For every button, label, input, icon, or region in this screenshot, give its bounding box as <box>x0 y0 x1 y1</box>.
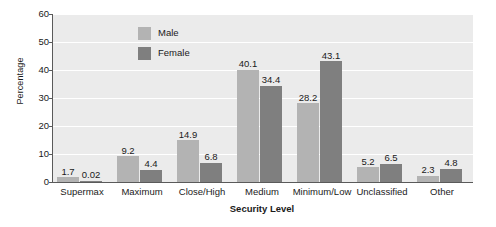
y-tick-label: 30 <box>3 93 49 103</box>
bar-female: 0.02 <box>80 181 102 183</box>
bars-layer: 1.70.029.24.414.96.840.134.428.243.15.26… <box>52 14 472 182</box>
x-tick-label: Minimum/Low <box>293 186 352 197</box>
legend: Male Female <box>138 25 190 65</box>
bar-group: 28.243.1 <box>292 14 352 182</box>
legend-label-male: Male <box>158 28 179 38</box>
y-tick-label: 10 <box>3 149 49 159</box>
x-tick-label: Close/High <box>179 186 225 197</box>
bar-value-label: 4.4 <box>144 159 157 169</box>
bar-male: 14.9 <box>177 140 199 182</box>
bar-male: 28.2 <box>297 103 319 182</box>
bar-group: 5.26.5 <box>352 14 412 182</box>
y-tick-label: 60 <box>3 9 49 19</box>
bar-group: 1.70.02 <box>52 14 112 182</box>
x-axis-title: Security Level <box>52 203 472 214</box>
x-axis-ticks: SupermaxMaximumClose/HighMediumMinimum/L… <box>52 186 472 200</box>
bar-value-label: 6.8 <box>204 152 217 162</box>
bar-value-label: 14.9 <box>179 130 198 140</box>
bar-female: 6.8 <box>200 163 222 182</box>
y-tick-label: 20 <box>3 121 49 131</box>
bar-group: 40.134.4 <box>232 14 292 182</box>
legend-item-female: Female <box>138 45 190 61</box>
x-tick-label: Supermax <box>60 186 103 197</box>
bar-male: 9.2 <box>117 156 139 182</box>
legend-swatch-female-icon <box>138 47 151 60</box>
legend-item-male: Male <box>138 25 190 41</box>
bar-female: 34.4 <box>260 86 282 182</box>
bar-value-label: 4.8 <box>444 158 457 168</box>
bar-value-label: 34.4 <box>262 75 281 85</box>
bar-value-label: 2.3 <box>421 165 434 175</box>
x-tick-label: Other <box>430 186 454 197</box>
x-tick-label: Maximum <box>121 186 162 197</box>
bar-male: 1.7 <box>57 177 79 182</box>
bar-male: 2.3 <box>417 176 439 182</box>
bar-female: 4.8 <box>440 169 462 182</box>
y-tick-label: 40 <box>3 65 49 75</box>
bar-value-label: 9.2 <box>121 146 134 156</box>
x-tick-label: Medium <box>245 186 279 197</box>
bar-female: 4.4 <box>140 170 162 182</box>
bar-value-label: 6.5 <box>384 153 397 163</box>
bar-group: 2.34.8 <box>412 14 472 182</box>
bar-value-label: 43.1 <box>322 51 341 61</box>
bar-value-label: 28.2 <box>299 93 318 103</box>
bar-male: 5.2 <box>357 167 379 182</box>
legend-swatch-male-icon <box>138 27 151 40</box>
bar-male: 40.1 <box>237 70 259 182</box>
bar-value-label: 40.1 <box>239 59 258 69</box>
bar-chart: Percentage 0102030405060 1.70.029.24.414… <box>0 0 496 227</box>
y-tick-label: 0 <box>3 177 49 187</box>
bar-value-label: 5.2 <box>361 157 374 167</box>
x-axis-line <box>52 182 473 183</box>
bar-value-label: 1.7 <box>61 167 74 177</box>
legend-label-female: Female <box>158 48 190 58</box>
bar-female: 6.5 <box>380 164 402 182</box>
x-tick-label: Unclassified <box>356 186 407 197</box>
bar-value-label: 0.02 <box>82 170 101 180</box>
bar-female: 43.1 <box>320 61 342 182</box>
y-tick-label: 50 <box>3 37 49 47</box>
